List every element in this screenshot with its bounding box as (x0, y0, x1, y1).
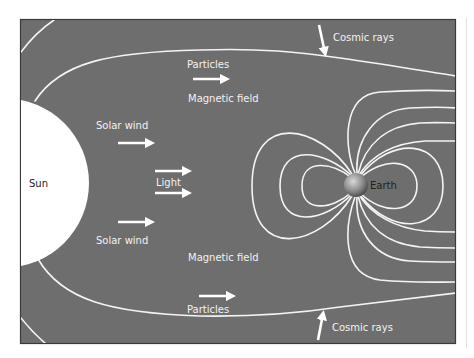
label-cosmic-rays-top: Cosmic rays (333, 32, 394, 43)
label-magnetic-field-top: Magnetic field (188, 93, 259, 104)
magnetosphere-diagram: Sun Earth Light Solar wind Solar wind Pa… (0, 0, 474, 358)
label-particles-top: Particles (187, 59, 229, 70)
label-earth: Earth (370, 180, 397, 191)
label-sun: Sun (29, 178, 48, 189)
label-cosmic-rays-bottom: Cosmic rays (332, 322, 393, 333)
label-solar-wind-top: Solar wind (96, 120, 148, 131)
label-particles-bottom: Particles (187, 304, 229, 315)
label-magnetic-field-bottom: Magnetic field (188, 252, 259, 263)
label-light: Light (156, 177, 181, 188)
label-solar-wind-bottom: Solar wind (96, 235, 148, 246)
earth-sphere-icon (344, 173, 368, 197)
